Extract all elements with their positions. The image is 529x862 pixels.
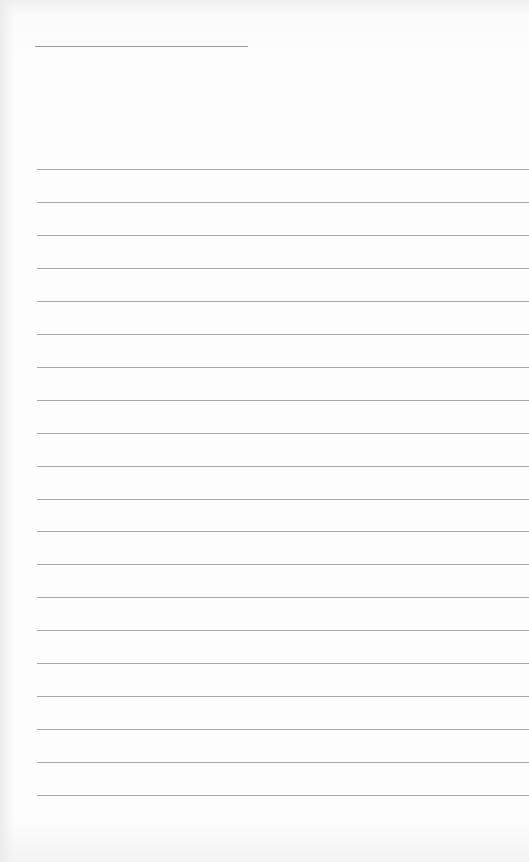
ruled-line bbox=[37, 301, 529, 302]
ruled-line bbox=[37, 169, 529, 170]
ruled-line bbox=[37, 630, 529, 631]
ruled-line bbox=[37, 531, 529, 532]
ruled-line bbox=[37, 597, 529, 598]
title-rule bbox=[35, 46, 248, 47]
ruled-line bbox=[37, 202, 529, 203]
ruled-line bbox=[37, 762, 529, 763]
ruled-line bbox=[37, 235, 529, 236]
ruled-line bbox=[37, 729, 529, 730]
ruled-line bbox=[37, 367, 529, 368]
ruled-line bbox=[37, 268, 529, 269]
ruled-line bbox=[37, 696, 529, 697]
paper-sheet bbox=[0, 0, 529, 862]
ruled-line bbox=[37, 334, 529, 335]
ruled-line bbox=[37, 466, 529, 467]
ruled-line bbox=[37, 795, 529, 796]
ruled-line bbox=[37, 564, 529, 565]
ruled-line bbox=[37, 433, 529, 434]
paper-shadow-edge bbox=[0, 0, 14, 862]
ruled-line bbox=[37, 400, 529, 401]
ruled-line bbox=[37, 499, 529, 500]
ruled-line bbox=[37, 663, 529, 664]
